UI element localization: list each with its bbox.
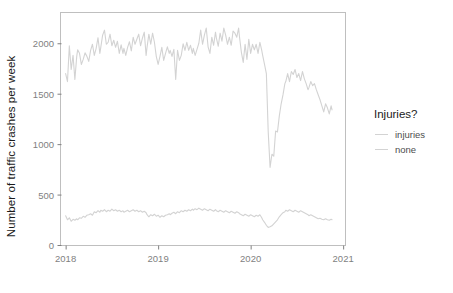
legend-item-label: injuries [395, 129, 425, 140]
chart-container: Number of traffic crashes per week 05001… [0, 0, 453, 293]
legend-item-injuries[interactable]: injuries [374, 127, 453, 141]
y-tick-label: 2000 [33, 38, 54, 49]
x-tick-label: 2020 [240, 253, 261, 264]
y-tick-label: 1500 [33, 88, 54, 99]
y-tick-label: 0 [49, 240, 54, 251]
series-line-injuries [66, 208, 332, 227]
x-tick-label: 2021 [333, 253, 354, 264]
y-tick-label: 500 [38, 189, 54, 200]
legend-items: injuriesnone [374, 127, 453, 156]
legend-key-icon [374, 129, 389, 140]
series-lines [66, 28, 332, 227]
legend-key-icon [374, 144, 389, 155]
legend-title: Injuries? [374, 108, 453, 120]
x-tick-label: 2019 [148, 253, 169, 264]
x-axis-tick-marks [66, 246, 344, 250]
legend-item-label: none [395, 144, 416, 155]
x-tick-label: 2018 [55, 253, 76, 264]
series-line-none [66, 28, 332, 167]
legend: Injuries? injuriesnone [374, 108, 453, 157]
legend-item-none[interactable]: none [374, 142, 453, 156]
y-tick-label: 1000 [33, 139, 54, 150]
